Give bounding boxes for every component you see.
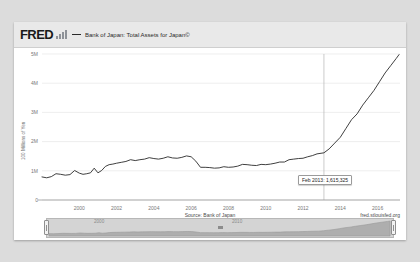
y-axis-title: 100 Millions of Yen xyxy=(21,121,26,160)
range-center-grip[interactable] xyxy=(218,226,223,229)
y-tick-label: 3M xyxy=(31,109,38,115)
screenshot-viewport: FRED Bank of Japan: Total Assets for Jap… xyxy=(0,0,420,262)
x-tick-label: 2014 xyxy=(335,205,346,211)
x-tick-label: 2008 xyxy=(223,205,234,211)
bar-chart-mark-icon xyxy=(56,30,67,39)
range-navigator[interactable]: 2000 2010 xyxy=(46,218,394,238)
y-tick-label: 4M xyxy=(31,80,38,86)
chart-header: FRED Bank of Japan: Total Assets for Jap… xyxy=(14,22,406,48)
fred-url-label[interactable]: fred.stlouisfed.org xyxy=(360,212,400,218)
x-tick-label: 2006 xyxy=(186,205,197,211)
y-axis-tick-labels: 01M2M3M4M5M xyxy=(31,51,38,203)
x-tick-label: 2000 xyxy=(74,205,85,211)
fred-chart-card: FRED Bank of Japan: Total Assets for Jap… xyxy=(14,22,406,240)
x-tick-label: 2004 xyxy=(148,205,159,211)
navigator-year-right: 2010 xyxy=(232,219,242,224)
source-label: Source: Bank of Japan xyxy=(14,212,406,218)
x-tick-label: 2012 xyxy=(297,205,308,211)
legend-line-swatch xyxy=(72,34,81,36)
y-tick-label: 1M xyxy=(31,168,38,174)
x-axis-tick-labels: 200020022004200620082010201220142016 xyxy=(74,205,384,211)
navigator-year-left: 2000 xyxy=(94,219,104,224)
x-tick-label: 2016 xyxy=(372,205,383,211)
series-line-path xyxy=(42,55,399,178)
x-tick-label: 2010 xyxy=(260,205,271,211)
fred-logo[interactable]: FRED xyxy=(20,28,53,41)
x-tick-label: 2002 xyxy=(111,205,122,211)
y-tick-label: 2M xyxy=(31,138,38,144)
y-tick-label: 0 xyxy=(35,197,38,203)
legend-series-label: Bank of Japan: Total Assets for Japan© xyxy=(85,32,190,38)
y-tick-label: 5M xyxy=(31,51,38,57)
range-handle-left[interactable] xyxy=(44,220,49,235)
data-point-tooltip: Feb 2013: 1,615,325 xyxy=(298,175,352,185)
range-handle-right[interactable] xyxy=(391,220,396,235)
